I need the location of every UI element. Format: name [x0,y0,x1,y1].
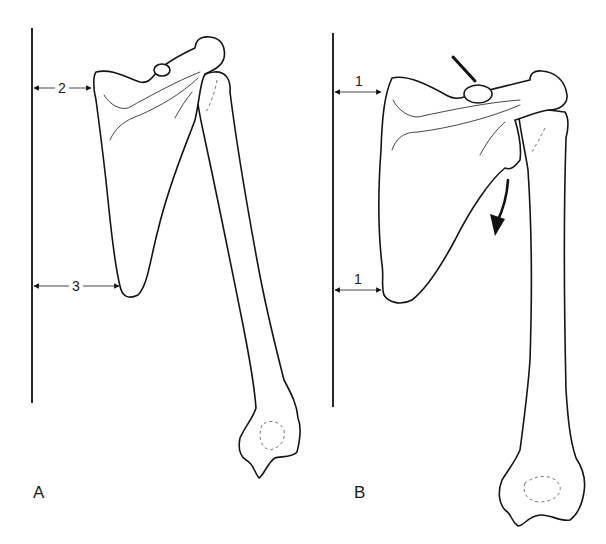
humerus-b [499,108,584,526]
panel-label-b: B [354,483,365,502]
panel-label-a: A [33,483,45,502]
coracoid-a [154,64,170,76]
dimension-label-1-upper: 1 [355,73,363,89]
dimension-label-2: 2 [58,80,66,96]
panel-b: 1 1 B [333,33,585,526]
humerus-a [197,72,300,478]
dimension-label-3: 3 [72,278,80,294]
anatomy-figure: 2 3 A 1 1 B [0,0,606,544]
dimension-label-1-lower: 1 [354,271,362,287]
pointer-line [453,57,475,81]
humeral-head-b [464,85,492,103]
rotation-arrow-icon [490,180,508,236]
panel-a: 2 3 A [32,28,300,502]
